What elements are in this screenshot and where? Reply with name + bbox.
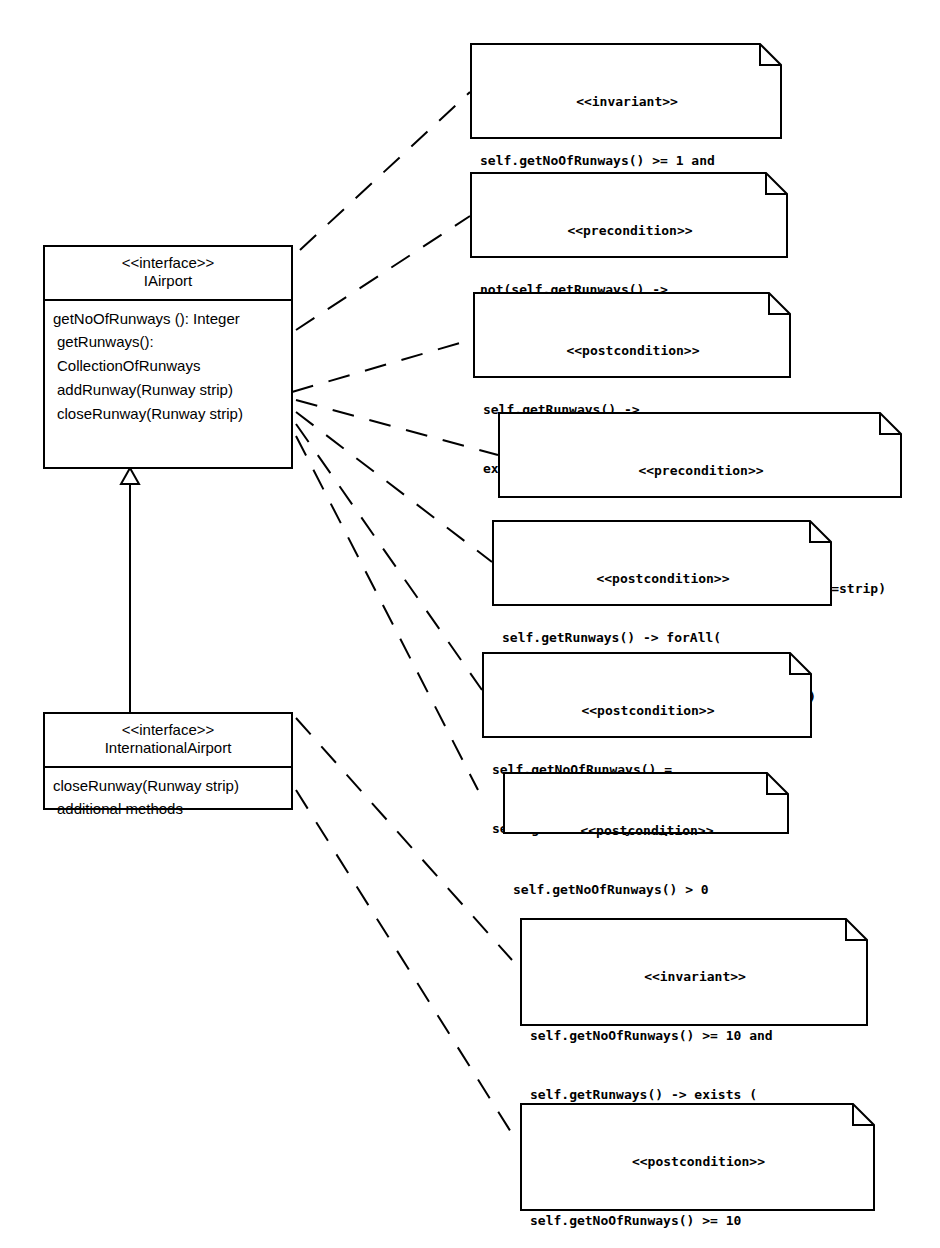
note-precondition-add-runway[interactable]: <<precondition>> not(self.getRunways() -… <box>470 172 788 258</box>
class-box-internationalairport[interactable]: <<interface>> InternationalAirport close… <box>43 712 293 810</box>
note-stereotype: <<precondition>> <box>508 461 894 481</box>
anchor-postcondition-international <box>296 790 516 1140</box>
note-line: self.getRunways() -> exists ( <box>530 1085 860 1105</box>
class-member: getNoOfRunways (): Integer <box>45 307 291 331</box>
note-line: self.getNoOfRunways() >= 10 <box>530 1211 867 1231</box>
note-postcondition-international[interactable]: <<postcondition>> self.getNoOfRunways() … <box>520 1103 875 1211</box>
note-line: self.getNoOfRunways() >= 10 and <box>530 1026 860 1046</box>
class-name: IAirport <box>49 272 287 290</box>
class-name: InternationalAirport <box>49 739 287 757</box>
anchor-precondition-close-runway <box>296 400 498 455</box>
note-precondition-close-runway[interactable]: <<precondition>> self.getRunways() -> ex… <box>498 412 902 498</box>
class-box-iairport[interactable]: <<interface>> IAirport getNoOfRunways ()… <box>43 245 293 469</box>
class-member: getRunways(): <box>45 330 291 354</box>
note-stereotype: <<precondition>> <box>480 221 780 241</box>
note-body: <<precondition>> self.getRunways() -> ex… <box>498 412 902 498</box>
class-header-iairport: <<interface>> IAirport <box>45 247 291 301</box>
note-body: <<postcondition>> self.getNoOfRunways() … <box>503 772 789 834</box>
note-stereotype: <<postcondition>> <box>502 569 824 589</box>
note-stereotype: <<postcondition>> <box>492 701 804 721</box>
note-invariant-runway-count[interactable]: <<invariant>> self.getNoOfRunways() >= 1… <box>470 43 782 139</box>
class-member: additional methods <box>45 797 291 821</box>
uml-diagram-canvas: <<interface>> IAirport getNoOfRunways ()… <box>0 0 940 1248</box>
note-body: <<invariant>> self.getNoOfRunways() >= 1… <box>470 43 782 139</box>
note-invariant-international[interactable]: <<invariant>> self.getNoOfRunways() >= 1… <box>520 918 868 1026</box>
note-postcondition-count-decrement[interactable]: <<postcondition>> self.getNoOfRunways() … <box>482 652 812 738</box>
note-body: <<postcondition>> self.getRunways() -> e… <box>473 292 791 378</box>
anchor-postcondition-decrement <box>296 424 482 690</box>
class-member: CollectionOfRunways <box>45 354 291 378</box>
class-header-internationalairport: <<interface>> InternationalAirport <box>45 714 291 768</box>
note-line: self.getNoOfRunways() >= 1 and <box>480 151 774 171</box>
note-stereotype: <<invariant>> <box>530 967 860 987</box>
generalization-edge <box>121 468 139 712</box>
class-member: closeRunway(Runway strip) <box>45 774 291 798</box>
note-body: <<postcondition>> self.getRunways() -> f… <box>492 520 832 606</box>
note-stereotype: <<postcondition>> <box>483 341 783 361</box>
class-stereotype: <<interface>> <box>49 254 287 272</box>
note-postcondition-count-positive[interactable]: <<postcondition>> self.getNoOfRunways() … <box>503 772 789 834</box>
class-member: addRunway(Runway strip) <box>45 378 291 402</box>
anchor-invariant-international <box>296 718 512 960</box>
class-member: closeRunway(Runway strip) <box>45 402 291 426</box>
class-members-internationalairport: closeRunway(Runway strip) additional met… <box>45 768 291 830</box>
class-stereotype: <<interface>> <box>49 721 287 739</box>
anchor-postcondition-positive <box>296 436 478 790</box>
note-stereotype: <<postcondition>> <box>530 1152 867 1172</box>
note-body: <<postcondition>> self.getNoOfRunways() … <box>520 1103 875 1211</box>
note-line: self.getNoOfRunways() > 0 <box>513 880 781 900</box>
class-members-iairport: getNoOfRunways (): Integer getRunways():… <box>45 301 291 434</box>
note-body: <<invariant>> self.getNoOfRunways() >= 1… <box>520 918 868 1026</box>
note-anchor-lines-international <box>296 718 516 1140</box>
note-body: <<postcondition>> self.getNoOfRunways() … <box>482 652 812 738</box>
note-anchor-lines <box>292 92 498 790</box>
note-postcondition-add-runway[interactable]: <<postcondition>> self.getRunways() -> e… <box>473 292 791 378</box>
note-stereotype: <<invariant>> <box>480 92 774 112</box>
anchor-invariant-runway-count <box>300 92 470 250</box>
anchor-postcondition-forall <box>296 412 492 562</box>
anchor-postcondition-add-runway <box>292 340 470 392</box>
note-body: <<precondition>> not(self.getRunways() -… <box>470 172 788 258</box>
note-postcondition-close-runway-forall[interactable]: <<postcondition>> self.getRunways() -> f… <box>492 520 832 606</box>
note-stereotype: <<postcondition>> <box>513 821 781 841</box>
anchor-precondition-add-runway <box>296 216 470 330</box>
note-line: self.getRunways() -> forAll( <box>502 628 824 648</box>
